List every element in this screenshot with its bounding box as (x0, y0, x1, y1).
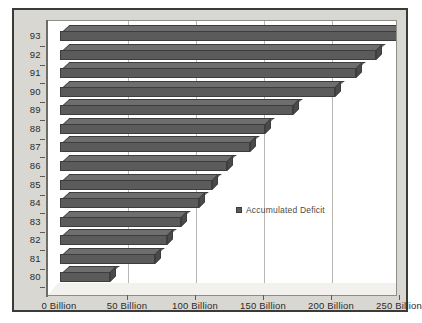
y-tick-92: 92 (30, 48, 41, 59)
y-tick-mark-86 (40, 176, 45, 177)
y-tick-81: 81 (30, 252, 41, 263)
x-tick-150: 150 Billion (240, 300, 286, 311)
x-tick-mark-200 (331, 295, 332, 300)
x-tick-250: 250 Billion (376, 300, 422, 311)
y-tick-mark-81 (40, 269, 45, 270)
bar-face-82 (60, 235, 167, 245)
bar-85 (48, 174, 397, 193)
bar-face-93 (60, 31, 397, 41)
y-tick-86: 86 (30, 160, 41, 171)
bar-86 (48, 155, 397, 174)
plot-area (47, 20, 397, 296)
bar-face-81 (60, 254, 155, 264)
y-tick-mark-93 (40, 46, 45, 47)
legend-label-accumulated-deficit: Accumulated Deficit (246, 205, 325, 215)
y-tick-mark-83 (40, 232, 45, 233)
y-tick-80: 80 (30, 271, 41, 282)
bar-face-92 (60, 50, 376, 60)
y-tick-mark-90 (40, 102, 45, 103)
chart-figure: 9392919089888786858483828180 0 Billion50… (12, 8, 408, 312)
y-tick-93: 93 (30, 30, 41, 41)
bar-face-91 (60, 68, 356, 78)
bar-end-87 (250, 136, 256, 152)
bar-87 (48, 136, 397, 155)
y-tick-91: 91 (30, 67, 41, 78)
y-axis-tick-labels: 9392919089888786858483828180 (14, 20, 44, 296)
y-tick-mark-87 (40, 157, 45, 158)
y-tick-mark-91 (40, 83, 45, 84)
x-tick-200: 200 Billion (308, 300, 354, 311)
x-tick-100: 100 Billion (172, 300, 218, 311)
y-tick-88: 88 (30, 122, 41, 133)
y-tick-mark-89 (40, 120, 45, 121)
bar-face-84 (60, 198, 199, 208)
bar-88 (48, 118, 397, 137)
y-tick-89: 89 (30, 104, 41, 115)
y-tick-87: 87 (30, 141, 41, 152)
bar-93 (48, 25, 397, 44)
legend-swatch-accumulated-deficit (236, 207, 242, 213)
y-axis-line (46, 20, 48, 297)
bar-end-80 (110, 266, 116, 282)
bar-face-89 (60, 105, 293, 115)
bar-91 (48, 62, 397, 81)
bar-81 (48, 248, 397, 267)
bar-face-80 (60, 272, 110, 282)
x-tick-50: 50 Billion (107, 300, 148, 311)
y-tick-mark-82 (40, 250, 45, 251)
x-tick-mark-100 (195, 295, 196, 300)
bar-face-86 (60, 161, 227, 171)
plot-floor-3d (48, 283, 397, 295)
bar-face-85 (60, 180, 212, 190)
x-tick-mark-150 (263, 295, 264, 300)
y-tick-mark-80 (40, 287, 45, 288)
x-tick-mark-250 (399, 295, 400, 300)
bar-face-90 (60, 87, 335, 97)
y-tick-83: 83 (30, 215, 41, 226)
bar-80 (48, 266, 397, 285)
y-tick-82: 82 (30, 234, 41, 245)
x-tick-mark-50 (127, 295, 128, 300)
bar-83 (48, 211, 397, 230)
y-tick-mark-85 (40, 195, 45, 196)
y-tick-mark-92 (40, 65, 45, 66)
bar-face-87 (60, 142, 250, 152)
bar-face-88 (60, 124, 265, 134)
y-tick-90: 90 (30, 85, 41, 96)
y-tick-mark-88 (40, 139, 45, 140)
x-axis-tick-labels: 0 Billion50 Billion100 Billion150 Billio… (47, 300, 407, 314)
chart-legend: Accumulated Deficit (236, 205, 325, 215)
y-tick-84: 84 (30, 197, 41, 208)
bar-84 (48, 192, 397, 211)
bar-90 (48, 81, 397, 100)
bar-92 (48, 44, 397, 63)
bar-82 (48, 229, 397, 248)
y-tick-85: 85 (30, 178, 41, 189)
bar-face-83 (60, 217, 181, 227)
y-tick-mark-84 (40, 213, 45, 214)
bar-89 (48, 99, 397, 118)
x-tick-0: 0 Billion (41, 300, 76, 311)
